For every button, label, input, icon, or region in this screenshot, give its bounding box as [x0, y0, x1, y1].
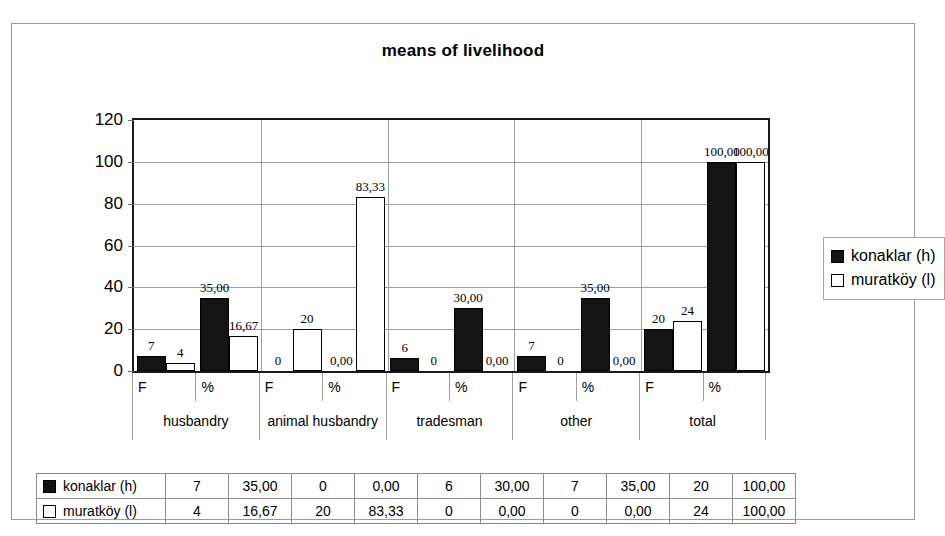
table-cell: 6	[418, 474, 481, 499]
table-cell: 0	[544, 499, 607, 524]
table-cell: 7	[166, 474, 229, 499]
chart-figure-frame: means of livelihood 0204060801001207435,…	[11, 23, 915, 520]
y-axis-tick-label: 80	[104, 194, 123, 214]
chart-data-table: konaklar (h)735,0000,00630,00735,0020100…	[36, 473, 796, 524]
table-cell: 0,00	[355, 474, 418, 499]
bar-value-label: 0,00	[486, 353, 509, 369]
bar	[200, 298, 229, 371]
bar	[137, 356, 166, 371]
bar	[166, 363, 195, 371]
plot-area: 0204060801001207435,0016,670200,0083,336…	[132, 118, 770, 373]
x-axis-subcategory-label: F	[132, 373, 195, 401]
table-row-header: konaklar (h)	[37, 474, 166, 499]
table-cell: 16,67	[229, 499, 292, 524]
table-cell: 35,00	[607, 474, 670, 499]
bar-value-label: 0	[431, 353, 438, 369]
y-axis-tick-label: 0	[114, 361, 123, 381]
x-axis-subcategory-label: F	[512, 373, 575, 401]
bar	[644, 329, 673, 371]
legend-item-muratkoy[interactable]: muratköy (l)	[831, 268, 935, 292]
gridline	[134, 162, 768, 163]
x-axis-subcategory-label: %	[449, 373, 512, 401]
bar	[581, 298, 610, 371]
table-swatch-empty-square-icon	[43, 505, 56, 518]
bar-value-label: 7	[528, 338, 535, 354]
bar-value-label: 0,00	[613, 353, 636, 369]
y-axis-tick-label: 20	[104, 319, 123, 339]
chart-title: means of livelihood	[12, 41, 914, 61]
x-axis-label-bands: F%F%F%F%F% husbandryanimal husbandrytrad…	[132, 373, 770, 440]
table-cell: 24	[670, 499, 733, 524]
bar	[673, 321, 702, 371]
legend-label: konaklar (h)	[851, 247, 935, 265]
x-axis-subcategory-label: F	[386, 373, 449, 401]
legend-swatch-filled-square-icon	[831, 250, 844, 263]
table-row-label: konaklar (h)	[63, 478, 137, 494]
category-separator	[514, 120, 515, 371]
y-axis-tick	[128, 204, 134, 205]
y-axis-tick	[128, 120, 134, 121]
bar-value-label: 0,00	[330, 353, 353, 369]
x-axis-subcategory-label: F	[639, 373, 702, 401]
y-axis-tick-label: 60	[104, 236, 123, 256]
bar-value-label: 0	[275, 353, 282, 369]
bar-value-label: 30,00	[454, 290, 483, 306]
bar-value-label: 20	[301, 311, 314, 327]
bar-value-label: 35,00	[200, 280, 229, 296]
x-axis-subcategory-row: F%F%F%F%F%	[132, 373, 770, 401]
gridline	[134, 246, 768, 247]
y-axis-tick-label: 40	[104, 277, 123, 297]
bar-value-label: 16,67	[229, 318, 258, 334]
bar	[707, 162, 736, 371]
y-axis-tick	[128, 329, 134, 330]
bar-value-label: 100,00	[733, 144, 769, 160]
x-axis-category-label: animal husbandry	[259, 401, 386, 440]
table-cell: 20	[670, 474, 733, 499]
bar-value-label: 20	[652, 311, 665, 327]
x-axis-subcategory-label: F	[259, 373, 322, 401]
table-cell: 4	[166, 499, 229, 524]
bar-value-label: 0	[557, 353, 564, 369]
y-axis-tick	[128, 371, 134, 372]
x-axis-category-label: other	[512, 401, 639, 440]
y-axis-tick	[128, 246, 134, 247]
x-axis-subcategory-label: %	[703, 373, 766, 401]
bar	[229, 336, 258, 371]
table-cell: 7	[544, 474, 607, 499]
bar	[356, 197, 385, 371]
table-row: konaklar (h)735,0000,00630,00735,0020100…	[37, 474, 796, 499]
x-axis-subcategory-label: %	[322, 373, 385, 401]
table-cell: 100,00	[733, 499, 796, 524]
bar-value-label: 83,33	[356, 179, 385, 195]
table-cell: 83,33	[355, 499, 418, 524]
category-separator	[641, 120, 642, 371]
y-axis-tick	[128, 287, 134, 288]
table-swatch-filled-square-icon	[43, 480, 56, 493]
y-axis-tick-label: 100	[95, 152, 123, 172]
bar	[390, 358, 419, 371]
table-cell: 0,00	[481, 499, 544, 524]
legend-swatch-empty-square-icon	[831, 274, 844, 287]
bar-value-label: 4	[177, 345, 184, 361]
x-axis-category-label: total	[639, 401, 766, 440]
category-separator	[261, 120, 262, 371]
bar-value-label: 35,00	[580, 280, 609, 296]
bar-value-label: 7	[148, 338, 155, 354]
bar	[517, 356, 546, 371]
table-row-label: muratköy (l)	[63, 503, 137, 519]
table-cell: 0,00	[607, 499, 670, 524]
y-axis-tick	[128, 162, 134, 163]
bar-value-label: 24	[681, 303, 694, 319]
y-axis-tick-label: 120	[95, 110, 123, 130]
x-axis-subcategory-label: %	[195, 373, 258, 401]
x-axis-subcategory-label: %	[576, 373, 639, 401]
table-row-header: muratköy (l)	[37, 499, 166, 524]
bar	[454, 308, 483, 371]
legend-item-konaklar[interactable]: konaklar (h)	[831, 244, 935, 268]
gridline	[134, 204, 768, 205]
table-cell: 30,00	[481, 474, 544, 499]
table-row: muratköy (l)416,672083,3300,0000,0024100…	[37, 499, 796, 524]
x-axis-category-row: husbandryanimal husbandrytradesmanothert…	[132, 401, 770, 440]
x-axis-category-label: husbandry	[132, 401, 259, 440]
table-cell: 100,00	[733, 474, 796, 499]
